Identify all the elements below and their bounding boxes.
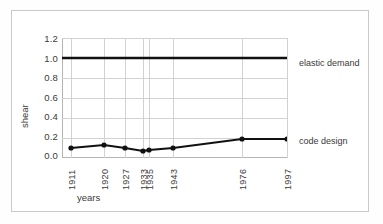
chart-figure: 1.2 1.0 0.8 0.6 0.4 0.2 0.0 19 bbox=[0, 0, 383, 224]
x-tick-label: 1927 bbox=[121, 169, 131, 190]
annotation-code-design: code design bbox=[299, 136, 348, 146]
y-tick-label: 0.6 bbox=[28, 92, 58, 103]
y-tick-label: 0.0 bbox=[28, 150, 58, 161]
gridline-vertical bbox=[287, 38, 288, 158]
y-axis-title: shear bbox=[19, 104, 30, 128]
x-tick-label: 1920 bbox=[100, 169, 110, 190]
y-tick-label: 0.4 bbox=[28, 111, 58, 122]
x-tick-label: 1997 bbox=[283, 169, 293, 190]
y-tick-label: 0.2 bbox=[28, 131, 58, 142]
x-tick-label: 1943 bbox=[169, 169, 179, 190]
annotation-elastic-demand: elastic demand bbox=[299, 58, 360, 68]
x-tick-label: 1911 bbox=[67, 169, 77, 190]
x-tick-label: 1935 bbox=[145, 169, 155, 190]
series-canvas bbox=[62, 38, 287, 159]
y-tick-label: 1.2 bbox=[28, 33, 58, 44]
x-axis-title: years bbox=[77, 192, 100, 203]
plot-area bbox=[62, 38, 287, 158]
y-tick-label: 1.0 bbox=[28, 53, 58, 64]
x-tick-label: 1976 bbox=[238, 169, 248, 190]
y-tick-label: 0.8 bbox=[28, 72, 58, 83]
